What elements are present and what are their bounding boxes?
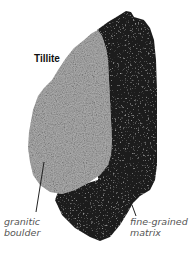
boulder-label-line1: granitic bbox=[4, 216, 40, 227]
matrix-label-line2: matrix bbox=[130, 227, 188, 238]
boulder-label-line2: boulder bbox=[4, 227, 40, 238]
tillite-rock-figure: Tillite granitic boulder fine-grained ma… bbox=[0, 0, 196, 256]
figure-title: Tillite bbox=[34, 53, 60, 64]
matrix-label: fine-grained matrix bbox=[130, 216, 188, 238]
matrix-label-line1: fine-grained bbox=[130, 216, 188, 227]
matrix-leader-line bbox=[132, 205, 136, 216]
boulder-label: granitic boulder bbox=[4, 216, 40, 238]
